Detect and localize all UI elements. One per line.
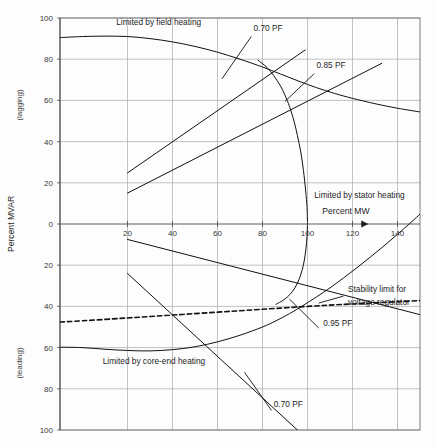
chart-canvas: 20406080100120140 1008060402002040608010… [0,0,438,448]
y-axis-tick-label: 40 [44,138,53,147]
y-axis-tick-label: 60 [44,96,53,105]
y-axis-leading-note: (leading) [15,347,24,378]
x-axis-tick-label: 140 [391,229,405,238]
x-axis-tick-label: 120 [346,229,360,238]
annotation-core-end-heating: Limited by core-end heating [103,356,206,366]
y-axis-tick-label: 100 [40,14,54,23]
x-axis-tick-label: 80 [258,229,267,238]
x-axis-tick-label: 40 [168,229,177,238]
axis-lines [60,18,420,430]
series-curve [128,50,306,173]
y-axis-tick-label: 60 [44,344,53,353]
series-curve [60,214,420,351]
generator-capability-chart: 20406080100120140 1008060402002040608010… [0,0,438,448]
series-curve [258,60,308,224]
annotation-pf-095-leading: 0.95 PF [323,318,352,328]
series-curve [128,63,382,193]
leader-stability-limit [319,296,344,303]
x-axis-tick-label: 20 [123,229,132,238]
x-axis-tick-label: 60 [213,229,222,238]
y-axis-tick-labels: 10080604020020406080100 [40,14,60,435]
y-axis-tick-label: 80 [44,55,53,64]
data-series-layer [60,36,420,433]
annotation-stator-heating: Limited by stator heating [314,190,405,200]
leader-pf-070-leading [245,372,272,410]
annotation-field-heating: Limited by field heating [116,17,201,27]
y-axis-lagging-note: (lagging) [15,89,24,120]
y-axis-tick-label: 20 [44,179,53,188]
y-axis-tick-label: 80 [44,385,53,394]
annotation-stability-limit-2: voltage regulator [348,297,410,307]
y-axis-tick-label: 40 [44,302,53,311]
leader-pf-095-leading [290,299,319,328]
y-axis-tick-label: 20 [44,261,53,270]
leader-pf-070-lagging [222,37,251,79]
annotation-pf-085-lagging: 0.85 PF [317,60,346,70]
percent-mw-arrow-icon [361,220,368,227]
y-axis-tick-label: 100 [40,426,54,435]
annotation-pf-070-lagging: 0.70 PF [254,23,283,33]
y-axis-title: Percent MVAR [6,196,16,252]
annotation-pf-070-leading: 0.70 PF [274,399,303,409]
annotation-stability-limit-1: Stability limit for [348,284,406,294]
x-axis-tick-label: 100 [301,229,315,238]
x-axis-title: Percent MW [322,206,370,216]
y-axis-tick-label: 0 [49,220,54,229]
